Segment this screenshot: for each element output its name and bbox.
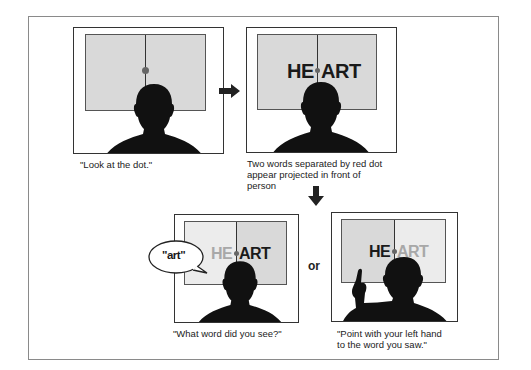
person-pointing-silhouette-icon: [342, 253, 454, 322]
panel-look-at-dot: [73, 27, 224, 154]
or-label: or: [308, 259, 320, 273]
caption-point-response: "Point with your left hand to the word y…: [337, 328, 442, 350]
caption-look-at-dot: "Look at the dot.": [80, 159, 152, 170]
caption-line: "Point with your left hand: [337, 328, 442, 339]
panel-point-response: HE ART: [331, 212, 458, 322]
caption-verbal-response: "What word did you see?": [173, 328, 282, 339]
person-silhouette-icon: [99, 80, 209, 154]
arrow-down-icon: [308, 186, 324, 206]
fixation-dot: [142, 67, 149, 74]
fixation-dot: [234, 251, 239, 256]
caption-line: Two words separated by red dot: [247, 158, 382, 169]
fixation-dot: [315, 68, 320, 73]
caption-line: appear projected in front of: [247, 169, 382, 180]
person-silhouette-icon: [266, 78, 376, 153]
panel-projected-words: HE ART: [246, 27, 397, 153]
speech-text: "art": [162, 250, 185, 262]
caption-line: to the word you saw.": [337, 339, 442, 350]
arrow-right-icon: [219, 84, 241, 98]
